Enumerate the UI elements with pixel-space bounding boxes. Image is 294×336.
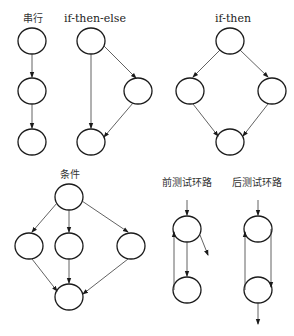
node: [55, 284, 83, 310]
case-panel: 条件: [15, 168, 145, 310]
node: [173, 277, 201, 303]
edge-arrow: [83, 259, 128, 294]
node: [77, 129, 105, 155]
case-label: 条件: [60, 168, 80, 180]
edge-arrow: [82, 201, 128, 232]
node: [77, 28, 105, 54]
node: [18, 28, 46, 54]
pre-test-loop-label: 前测试环路: [162, 176, 212, 188]
edge-arrow: [32, 259, 57, 291]
node: [124, 78, 152, 104]
sequential-label: 串行: [23, 12, 43, 24]
node: [18, 129, 46, 155]
node: [55, 184, 83, 210]
if-then-else-panel: if-then-else: [64, 12, 152, 155]
edge-arrow: [32, 203, 57, 232]
edge-arrow: [193, 50, 220, 77]
if-then-panel: if-then: [176, 12, 286, 155]
exit-arrow: [200, 235, 208, 255]
post-test-loop-panel: 后测试环路: [232, 176, 282, 324]
edge-arrow: [104, 103, 133, 137]
node: [244, 216, 272, 242]
node: [18, 78, 46, 104]
edge-arrow: [193, 104, 218, 136]
edge-arrow: [240, 50, 268, 77]
node: [258, 78, 286, 104]
node: [173, 216, 201, 242]
edge-arrow: [243, 104, 268, 136]
node: [176, 78, 204, 104]
node: [216, 28, 244, 54]
node: [55, 233, 83, 259]
node: [216, 129, 244, 155]
node: [15, 233, 43, 259]
flow-graph-diagram: 串行 if-then-else if-then 条件: [0, 0, 294, 336]
node: [117, 233, 145, 259]
pre-test-loop-panel: 前测试环路: [162, 176, 212, 303]
post-test-loop-label: 后测试环路: [232, 176, 282, 188]
edge-arrow: [104, 46, 136, 78]
if-then-label: if-then: [215, 12, 251, 25]
if-then-else-label: if-then-else: [64, 12, 126, 25]
node: [244, 277, 272, 303]
sequential-panel: 串行: [18, 12, 46, 155]
